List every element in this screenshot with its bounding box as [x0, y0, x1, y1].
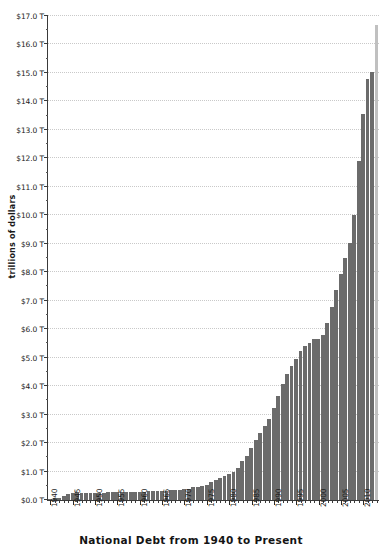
- x-axis-tick-label: 1980: [229, 489, 238, 507]
- bar: [321, 335, 325, 500]
- bar: [375, 25, 379, 500]
- bar: [133, 492, 137, 500]
- bar: [196, 487, 200, 500]
- bar: [240, 461, 244, 500]
- y-axis-tick-label: $16.0 T: [2, 40, 44, 49]
- x-axis-tick-label: 1965: [162, 489, 171, 507]
- x-axis-tick-label: 1975: [207, 489, 216, 507]
- bar: [281, 384, 285, 500]
- bar: [129, 492, 133, 500]
- bar: [272, 408, 276, 500]
- bar: [111, 492, 115, 500]
- bar: [294, 359, 298, 500]
- bar: [348, 243, 352, 500]
- bar: [200, 486, 204, 500]
- y-axis-tick-label: $11.0 T: [2, 182, 44, 191]
- y-axis-tick-label: $9.0 T: [2, 239, 44, 248]
- y-axis-tick-label: $4.0 T: [2, 382, 44, 391]
- bar: [312, 339, 316, 500]
- x-axis-tick-label: 2005: [341, 489, 350, 507]
- x-axis-tick-label: 1985: [252, 489, 261, 507]
- y-axis-tick-label: $8.0 T: [2, 268, 44, 277]
- bar: [308, 343, 312, 500]
- x-axis-tick-label: 1990: [274, 489, 283, 507]
- x-axis-tick-label: 1995: [296, 489, 305, 507]
- y-axis-tick-label: $0.0 T: [2, 496, 44, 505]
- bar: [156, 491, 160, 500]
- bar: [223, 476, 227, 500]
- bar: [334, 290, 338, 500]
- y-axis-tick-label: $1.0 T: [2, 467, 44, 476]
- bar-series: [48, 16, 379, 500]
- bar: [151, 491, 155, 500]
- y-axis-tick-labels: $0.0 T$1.0 T$2.0 T$3.0 T$4.0 T$5.0 T$6.0…: [0, 0, 44, 553]
- bar: [178, 490, 182, 500]
- bar: [84, 493, 88, 500]
- bar: [366, 79, 370, 500]
- bar: [276, 396, 280, 500]
- y-axis-tick-label: $3.0 T: [2, 410, 44, 419]
- plot-area: 1940194519501955196019651970197519801985…: [47, 16, 379, 501]
- bar: [245, 456, 249, 500]
- bar: [370, 72, 374, 500]
- bar: [352, 215, 356, 500]
- x-axis-tick-label: 1970: [184, 489, 193, 507]
- bar: [89, 493, 93, 500]
- bar: [343, 258, 347, 500]
- bar: [316, 339, 320, 500]
- bar: [299, 351, 303, 500]
- x-axis-tick-label: 1955: [117, 489, 126, 507]
- x-axis-tick-label: 2010: [363, 489, 372, 507]
- x-axis-tick-label: 1940: [50, 489, 59, 507]
- x-axis-tick-label: 2000: [319, 489, 328, 507]
- y-axis-tick-label: $14.0 T: [2, 97, 44, 106]
- bar: [267, 419, 271, 500]
- bar: [263, 426, 267, 500]
- bar: [339, 274, 343, 500]
- x-axis-tick-label: 1950: [95, 489, 104, 507]
- y-axis-tick-label: $12.0 T: [2, 154, 44, 163]
- bar: [330, 307, 334, 500]
- y-axis-tick-label: $17.0 T: [2, 12, 44, 21]
- bar: [303, 346, 307, 500]
- bar: [290, 366, 294, 500]
- national-debt-bar-chart: trillions of dollars $0.0 T$1.0 T$2.0 T$…: [0, 0, 382, 553]
- bar: [325, 323, 329, 500]
- y-axis-tick-label: $7.0 T: [2, 296, 44, 305]
- chart-title: National Debt from 1940 to Present: [0, 534, 382, 546]
- y-axis-tick-label: $13.0 T: [2, 125, 44, 134]
- y-axis-tick-label: $10.0 T: [2, 211, 44, 220]
- bar: [285, 374, 289, 500]
- x-axis-tick-label: 1960: [140, 489, 149, 507]
- y-axis-tick-label: $15.0 T: [2, 68, 44, 77]
- x-axis-tick-label: 1945: [73, 489, 82, 507]
- bar: [173, 490, 177, 500]
- bar: [357, 161, 361, 500]
- y-axis-tick-label: $2.0 T: [2, 439, 44, 448]
- bar: [361, 114, 365, 500]
- y-axis-tick-label: $5.0 T: [2, 353, 44, 362]
- bar: [106, 492, 110, 500]
- bar: [218, 478, 222, 500]
- y-axis-tick-label: $6.0 T: [2, 325, 44, 334]
